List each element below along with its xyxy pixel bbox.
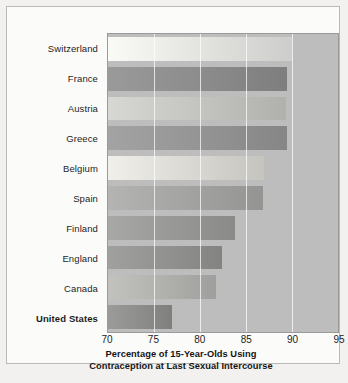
bar-united-states	[108, 305, 172, 329]
bar-belgium	[108, 156, 264, 180]
category-label: Austria	[15, 93, 103, 123]
category-label: Spain	[15, 183, 103, 213]
x-tick-label: 95	[333, 334, 344, 345]
chart-caption: Percentage of 15-Year-Olds Using Contrac…	[15, 349, 347, 372]
bar-row	[108, 64, 338, 94]
figure-page: SwitzerlandFranceAustriaGreeceBelgiumSpa…	[0, 0, 348, 383]
caption-line-2: Contraception at Last Sexual Intercourse	[15, 361, 347, 373]
bar-spain	[108, 186, 263, 210]
x-tick-label: 70	[101, 334, 112, 345]
category-label: Greece	[15, 123, 103, 153]
bar-rows	[108, 34, 338, 332]
bar-row	[108, 94, 338, 124]
plot-area	[107, 33, 339, 333]
x-tick-label: 85	[241, 334, 252, 345]
bar-greece	[108, 126, 287, 150]
x-tick-label: 80	[194, 334, 205, 345]
category-axis-labels: SwitzerlandFranceAustriaGreeceBelgiumSpa…	[15, 33, 103, 333]
bar-chart: SwitzerlandFranceAustriaGreeceBelgiumSpa…	[15, 15, 347, 371]
bar-row	[108, 34, 338, 64]
category-label: Canada	[15, 273, 103, 303]
bar-finland	[108, 216, 235, 240]
bar-england	[108, 246, 222, 270]
x-axis-ticks: 707580859095	[107, 334, 339, 348]
bar-row	[108, 153, 338, 183]
bar-row	[108, 302, 338, 332]
x-tick-label: 75	[148, 334, 159, 345]
figure-frame: SwitzerlandFranceAustriaGreeceBelgiumSpa…	[6, 6, 340, 364]
bar-row	[108, 123, 338, 153]
category-label: England	[15, 243, 103, 273]
bar-austria	[108, 97, 286, 121]
bar-france	[108, 67, 287, 91]
bar-row	[108, 272, 338, 302]
category-label: Finland	[15, 213, 103, 243]
bar-row	[108, 243, 338, 273]
bar-row	[108, 183, 338, 213]
bar-row	[108, 213, 338, 243]
x-tick-label: 90	[287, 334, 298, 345]
category-label: United States	[15, 303, 103, 333]
bar-switzerland	[108, 37, 292, 61]
category-label: France	[15, 63, 103, 93]
category-label: Belgium	[15, 153, 103, 183]
category-label: Switzerland	[15, 33, 103, 63]
bar-canada	[108, 275, 216, 299]
caption-line-1: Percentage of 15-Year-Olds Using	[15, 349, 347, 361]
